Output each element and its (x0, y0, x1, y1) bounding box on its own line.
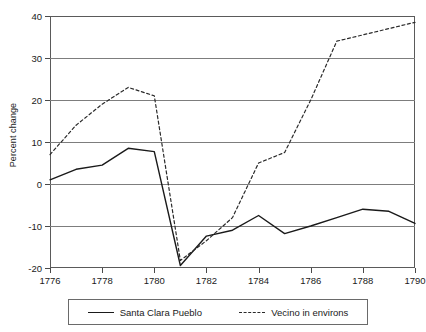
x-tick-label: 1788 (352, 275, 373, 286)
y-tick-label: 20 (31, 95, 42, 106)
x-tick-mark (50, 268, 51, 273)
x-tick-mark (259, 268, 260, 273)
x-tick-label: 1782 (196, 275, 217, 286)
y-tick-label: -10 (28, 221, 42, 232)
x-tick-mark (415, 268, 416, 273)
x-tick-mark (206, 268, 207, 273)
series-lines (50, 16, 415, 268)
y-axis-title: Percent change (8, 75, 18, 195)
x-tick-mark (102, 268, 103, 273)
legend-line-dashed-icon (239, 308, 265, 316)
x-tick-mark (154, 268, 155, 273)
y-tick-label: 30 (31, 53, 42, 64)
legend-label: Vecino in environs (271, 307, 348, 318)
legend-item-santa-clara-pueblo: Santa Clara Pueblo (88, 307, 202, 318)
y-tick-label: 40 (31, 11, 42, 22)
chart-figure: Percent change 403020100-10-20 177617781… (0, 0, 426, 332)
plot-area: 403020100-10-20 177617781780178217841786… (50, 16, 415, 268)
series-line (50, 22, 415, 260)
chart-legend: Santa Clara Pueblo Vecino in environs (68, 299, 368, 325)
x-tick-label: 1776 (39, 275, 60, 286)
x-tick-label: 1790 (404, 275, 425, 286)
y-tick-label: 10 (31, 137, 42, 148)
x-tick-label: 1780 (144, 275, 165, 286)
y-tick-label: 0 (37, 179, 42, 190)
x-tick-label: 1778 (92, 275, 113, 286)
series-line (50, 148, 415, 265)
y-tick-label: -20 (28, 263, 42, 274)
x-tick-label: 1786 (300, 275, 321, 286)
legend-label: Santa Clara Pueblo (120, 307, 202, 318)
x-tick-mark (311, 268, 312, 273)
legend-line-solid-icon (88, 308, 114, 316)
legend-item-vecino-in-environs: Vecino in environs (239, 307, 348, 318)
x-tick-mark (363, 268, 364, 273)
x-tick-label: 1784 (248, 275, 269, 286)
